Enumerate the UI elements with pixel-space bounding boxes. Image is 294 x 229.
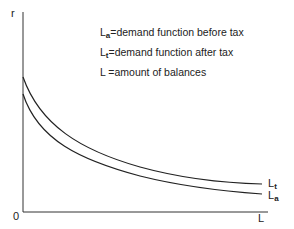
curve-label-la: La <box>268 190 279 203</box>
legend-item-lt: Lt=demand function after tax <box>100 44 244 64</box>
y-axis-label: r <box>11 8 15 19</box>
legend-item-la: La=demand function before tax <box>100 24 244 44</box>
x-axis-label: L <box>258 213 264 224</box>
legend-item-l: L =amount of balances <box>100 64 244 80</box>
origin-label: 0 <box>13 211 19 222</box>
legend: La=demand function before tax Lt=demand … <box>100 24 244 80</box>
curve-lt-after-tax <box>23 77 262 184</box>
curve-la-before-tax <box>23 94 262 194</box>
